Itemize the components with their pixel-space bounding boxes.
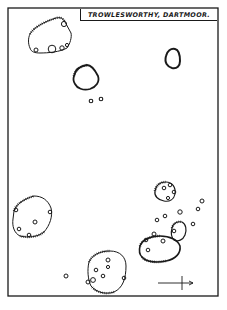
enclosure-west <box>13 196 52 237</box>
enclosure-east-annex <box>171 222 186 241</box>
enclosure-upper-middle <box>73 65 102 103</box>
enclosure-east-small <box>155 182 176 201</box>
map-title: TROWLESWORTHY, DARTMOOR. <box>88 11 210 19</box>
enclosure-south <box>86 251 126 293</box>
enclosure-northwest <box>29 18 72 53</box>
site-plan-drawing <box>0 0 227 310</box>
compass-cross-icon <box>158 276 193 290</box>
title-box: TROWLESWORTHY, DARTMOOR. <box>80 9 217 21</box>
isolated-hut <box>64 274 68 278</box>
enclosure-northeast <box>165 49 180 68</box>
enclosure-east-large <box>139 232 180 262</box>
map-border <box>8 8 218 296</box>
